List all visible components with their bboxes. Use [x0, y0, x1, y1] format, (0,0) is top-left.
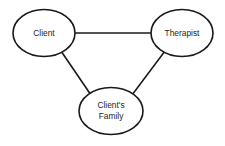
diagram-canvas: Client Therapist Client's Family [0, 0, 225, 146]
node-therapist[interactable]: Therapist [151, 10, 213, 57]
node-client-label: Client [33, 28, 55, 38]
edge-therapist-family [132, 51, 165, 95]
triad-diagram: Client Therapist Client's Family [0, 0, 225, 146]
node-client[interactable]: Client [13, 10, 75, 57]
edge-client-family [61, 51, 91, 95]
node-clients-family[interactable]: Client's Family [79, 88, 143, 135]
node-clients-family-label-line2: Family [99, 111, 124, 121]
node-clients-family-label-line1: Client's [97, 100, 124, 110]
node-therapist-label: Therapist [165, 28, 201, 38]
